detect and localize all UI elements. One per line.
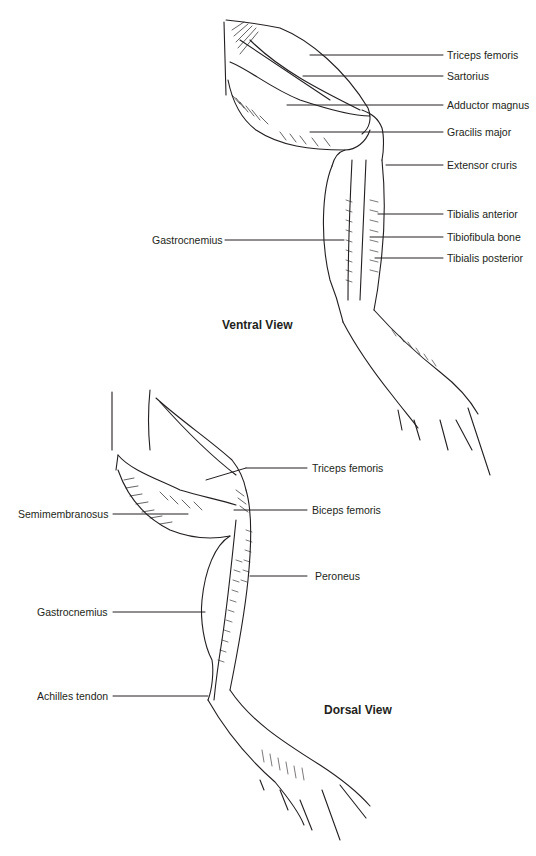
label-ventral-tibiofibula-bone: Tibiofibula bone [447, 231, 521, 243]
dorsal-leg-drawing [112, 390, 370, 840]
label-dorsal-gastrocnemius: Gastrocnemius [37, 606, 108, 618]
label-ventral-triceps-femoris: Triceps femoris [447, 49, 518, 61]
label-dorsal-peroneus: Peroneus [315, 570, 360, 582]
label-ventral-sartorius: Sartorius [447, 70, 489, 82]
dorsal-view-title: Dorsal View [324, 703, 392, 717]
label-ventral-gracilis-major: Gracilis major [447, 126, 511, 138]
ventral-view-title: Ventral View [222, 318, 292, 332]
label-ventral-extensor-cruris: Extensor cruris [447, 159, 517, 171]
label-ventral-tibialis-anterior: Tibialis anterior [447, 208, 518, 220]
label-dorsal-triceps-femoris: Triceps femoris [312, 462, 383, 474]
label-dorsal-achilles-tendon: Achilles tendon [37, 690, 108, 702]
ventral-leg-drawing [224, 20, 490, 475]
label-ventral-tibialis-posterior: Tibialis posterior [447, 252, 523, 264]
label-dorsal-biceps-femoris: Biceps femoris [312, 504, 381, 516]
label-dorsal-semimembranosus: Semimembranosus [18, 508, 108, 520]
label-ventral-gastrocnemius: Gastrocnemius [152, 234, 223, 246]
label-ventral-adductor-magnus: Adductor magnus [447, 99, 529, 111]
